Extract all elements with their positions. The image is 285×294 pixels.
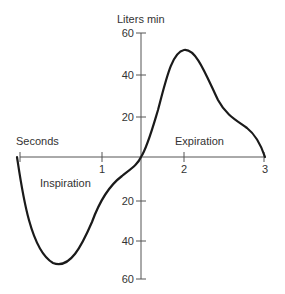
x-tick-label-1: 1 bbox=[99, 163, 105, 175]
x-axis-title: Seconds bbox=[16, 135, 59, 147]
inspiration-label: Inspiration bbox=[40, 177, 91, 189]
y-tick-label-pos40: 40 bbox=[122, 69, 134, 81]
y-tick-label-pos20: 20 bbox=[122, 111, 134, 123]
y-tick-label-neg20: 20 bbox=[122, 195, 134, 207]
y-tick-label-neg60: 60 bbox=[122, 273, 134, 285]
expiration-label: Expiration bbox=[175, 135, 224, 147]
y-tick-label-pos60: 60 bbox=[122, 27, 134, 39]
y-axis-title: Liters min bbox=[117, 13, 165, 25]
x-tick-label-3: 3 bbox=[262, 163, 268, 175]
flow-volume-chart: 1 2 3 60 40 20 20 40 60 Liters min Secon… bbox=[0, 0, 285, 294]
y-tick-label-neg40: 40 bbox=[122, 235, 134, 247]
x-tick-label-2: 2 bbox=[181, 163, 187, 175]
